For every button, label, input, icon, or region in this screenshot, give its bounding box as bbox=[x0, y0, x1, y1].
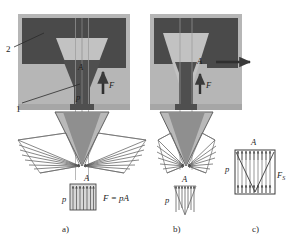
panel-b-stem bbox=[179, 62, 193, 106]
panel-a: A p F A p F = pA 2 1 bbox=[6, 14, 146, 210]
caption-panel-c: c) bbox=[252, 224, 259, 234]
panel-a-base-bar-dark bbox=[70, 104, 94, 110]
panel-c: A p FS bbox=[224, 137, 285, 194]
panel-a-callout-2: 2 bbox=[6, 44, 11, 54]
panel-a-label-force: F bbox=[108, 80, 115, 90]
panel-c-label-force-s: FS bbox=[276, 170, 285, 181]
panel-a-callout-1: 1 bbox=[16, 104, 21, 114]
panel-a-label-pressure-lower: p bbox=[61, 194, 66, 204]
caption-panel-a: a) bbox=[62, 224, 69, 234]
panel-b-label-area-lower: A bbox=[181, 174, 188, 184]
panel-a-pressure-box bbox=[70, 184, 96, 210]
panel-c-label-area: A bbox=[250, 137, 257, 147]
panel-a-label-pressure: p bbox=[75, 92, 80, 102]
panel-c-box bbox=[235, 150, 275, 194]
figure-canvas: A p F A p F = pA 2 1 bbox=[0, 0, 295, 244]
panel-c-label-pressure: p bbox=[224, 164, 229, 174]
panel-b-label-area: A bbox=[196, 56, 203, 66]
panel-a-label-area-lower: A bbox=[83, 173, 90, 183]
panel-b-label-pressure: p bbox=[164, 195, 169, 205]
figure-root: A p F A p F = pA 2 1 bbox=[0, 0, 295, 244]
panel-b-label-force: F bbox=[205, 80, 212, 90]
panel-a-label-area: A bbox=[77, 62, 84, 72]
panel-a-equation: F = pA bbox=[102, 193, 130, 203]
panel-b-lower-bundle bbox=[174, 186, 196, 215]
panel-b-dark-block-step bbox=[207, 18, 238, 68]
caption-panel-b: b) bbox=[173, 224, 181, 234]
panel-b-base-bar-dark bbox=[175, 104, 197, 110]
